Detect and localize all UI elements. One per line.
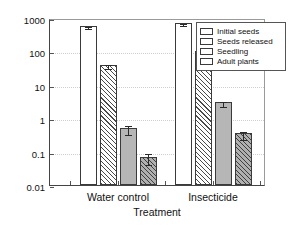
x-tick-mark-minor bbox=[165, 181, 166, 185]
error-bar bbox=[128, 126, 129, 135]
y-tick-mark bbox=[50, 53, 54, 54]
x-tick-mark bbox=[213, 181, 214, 185]
legend-label: Initial seeds bbox=[217, 27, 259, 36]
bar bbox=[120, 128, 137, 185]
legend-swatch bbox=[200, 58, 213, 65]
x-tick-mark-minor bbox=[70, 181, 71, 185]
error-bar-cap bbox=[220, 102, 227, 103]
error-bar-cap bbox=[85, 27, 92, 28]
y-tick-mark bbox=[50, 187, 54, 188]
error-bar-cap bbox=[240, 132, 247, 133]
chart-figure: Densities of plant stages 10001001010.10… bbox=[0, 0, 295, 228]
legend-item: Seeds released bbox=[200, 37, 281, 47]
error-bar-cap bbox=[105, 69, 112, 70]
legend-item: Initial seeds bbox=[200, 27, 281, 37]
bar bbox=[235, 133, 252, 185]
y-tick-label: 0.1 bbox=[32, 148, 45, 159]
y-tick-label: 1 bbox=[40, 115, 45, 126]
error-bar-cap bbox=[180, 24, 187, 25]
x-group-label: Insecticide bbox=[188, 191, 238, 203]
bar bbox=[80, 26, 97, 185]
legend-item: Adult plants bbox=[200, 57, 281, 67]
y-tick-mark bbox=[50, 20, 54, 21]
bar bbox=[195, 51, 212, 185]
bar bbox=[175, 23, 192, 185]
error-bar-cap bbox=[85, 29, 92, 30]
error-bar-cap bbox=[145, 154, 152, 155]
error-bar-cap bbox=[240, 140, 247, 141]
error-bar-cap bbox=[180, 26, 187, 27]
legend-label: Seedling bbox=[217, 47, 248, 56]
y-tick-label: 1000 bbox=[24, 15, 45, 26]
y-tick-label: 10 bbox=[34, 81, 45, 92]
y-tick-mark bbox=[50, 87, 54, 88]
legend-swatch bbox=[200, 28, 213, 35]
y-tick-mark bbox=[50, 154, 54, 155]
error-bar-cap bbox=[125, 135, 132, 136]
error-bar-cap bbox=[145, 165, 152, 166]
legend-swatch bbox=[200, 48, 213, 55]
error-bar bbox=[243, 132, 244, 140]
legend-label: Seeds released bbox=[217, 37, 273, 46]
x-axis-title: Treatment bbox=[49, 206, 265, 218]
legend-swatch bbox=[200, 38, 213, 45]
y-tick-mark bbox=[50, 120, 54, 121]
chart-legend: Initial seedsSeeds releasedSeedlingAdult… bbox=[196, 22, 286, 71]
bar bbox=[215, 102, 232, 185]
bar bbox=[100, 65, 117, 185]
error-bar-cap bbox=[125, 126, 132, 127]
legend-label: Adult plants bbox=[217, 57, 259, 66]
legend-item: Seedling bbox=[200, 47, 281, 57]
x-group-label: Water control bbox=[87, 191, 149, 203]
error-bar-cap bbox=[105, 65, 112, 66]
error-bar bbox=[148, 154, 149, 165]
y-tick-label: 100 bbox=[29, 48, 45, 59]
x-tick-mark-minor bbox=[260, 181, 261, 185]
error-bar-cap bbox=[220, 107, 227, 108]
y-tick-label: 0.01 bbox=[27, 182, 46, 193]
x-tick-mark bbox=[118, 181, 119, 185]
